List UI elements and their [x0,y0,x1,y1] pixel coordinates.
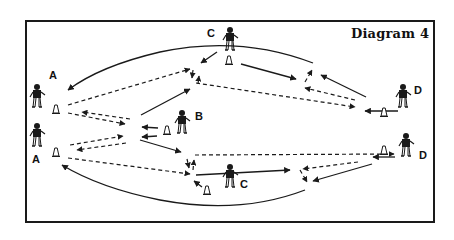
player-d1-icon [396,84,411,107]
label-d-bottom: D [419,149,427,161]
player-a1-icon [30,84,45,107]
cone-icon [225,56,233,65]
label-c-top: C [207,27,215,39]
curve-top [68,46,313,90]
label-a-bottom: A [32,153,40,165]
label-b: B [195,110,203,122]
cone-icon [163,126,171,135]
cone-icon [52,148,60,157]
player-b-icon [175,110,190,133]
label-a-top: A [49,69,57,81]
players [30,27,414,187]
cone-icon [203,186,211,195]
label-c-bottom: C [240,178,248,190]
cone-icon [380,146,388,155]
diagram-title: Diagram 4 [351,26,429,41]
player-a2-icon [30,123,45,146]
cone-icon [52,105,60,114]
player-d2-icon [399,133,414,156]
cone-icon [380,108,388,117]
label-d-top: D [414,84,422,96]
player-c2-icon [223,164,238,187]
solid-run-lines [62,46,398,206]
